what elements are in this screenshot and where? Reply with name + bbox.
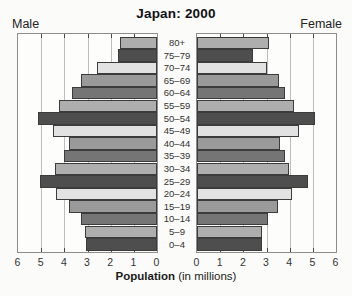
female-axis-tick-label: 6 [333, 256, 339, 268]
age-group-label-column: 80+75–7970–7465–6960–6455–5950–5445–4940… [158, 33, 196, 253]
male-axis-tick-label: 1 [130, 256, 136, 268]
male-bar-5–9 [85, 226, 157, 239]
axis-tick [41, 248, 42, 252]
gridline [313, 34, 314, 252]
male-side-label: Male [12, 17, 39, 31]
female-bar-10–14 [197, 213, 268, 226]
female-bar-45–49 [197, 125, 299, 138]
male-bar-15–19 [69, 200, 157, 213]
male-bar-30–34 [55, 163, 157, 176]
female-axis-tick-label: 1 [217, 256, 223, 268]
male-bar-50–54 [38, 112, 157, 125]
female-bar-80+ [197, 37, 269, 50]
age-label: 35–39 [158, 151, 196, 161]
female-axis-tick-label: 5 [309, 256, 315, 268]
age-label: 60–64 [158, 88, 196, 98]
x-axis-title: Population (in millions) [0, 270, 352, 282]
male-bar-40–44 [69, 137, 157, 150]
male-bar-25–29 [40, 175, 157, 188]
male-axis-tick-label: 5 [38, 256, 44, 268]
age-label: 30–34 [158, 164, 196, 174]
male-bar-75–79 [118, 49, 157, 62]
gridline [290, 34, 291, 252]
age-label: 15–19 [158, 202, 196, 212]
age-label: 0–4 [158, 240, 196, 250]
male-bar-35–39 [64, 150, 157, 163]
male-axis-tick-label: 6 [15, 256, 21, 268]
gridline [64, 34, 65, 252]
axis-tick [290, 248, 291, 252]
age-label: 5–9 [158, 227, 196, 237]
male-bar-45–49 [53, 125, 157, 138]
age-label: 40–44 [158, 139, 196, 149]
male-bar-20–24 [56, 188, 157, 201]
age-label: 45–49 [158, 126, 196, 136]
male-axis-tick-label: 3 [84, 256, 90, 268]
female-plot-area [196, 33, 337, 253]
age-label: 65–69 [158, 76, 196, 86]
axis-tick [41, 34, 42, 38]
axis-tick [313, 34, 314, 38]
female-bar-15–19 [197, 200, 278, 213]
female-bar-25–29 [197, 175, 308, 188]
female-axis-tick-label: 3 [263, 256, 269, 268]
male-bar-10–14 [81, 213, 157, 226]
male-bar-70–74 [97, 62, 157, 75]
chart-title: Japan: 2000 [0, 6, 352, 21]
gridline [41, 34, 42, 252]
male-axis-tick-label: 2 [107, 256, 113, 268]
female-bar-30–34 [197, 163, 289, 176]
female-bar-60–64 [197, 87, 285, 100]
axis-tick [64, 34, 65, 38]
axis-tick [313, 248, 314, 252]
male-bar-80+ [120, 37, 157, 50]
age-label: 10–14 [158, 214, 196, 224]
male-plot-area [17, 33, 158, 253]
female-bar-5–9 [197, 226, 262, 239]
male-axis-tick-label: 4 [61, 256, 67, 268]
female-bar-40–44 [197, 137, 280, 150]
female-bar-75–79 [197, 49, 253, 62]
female-bar-55–59 [197, 100, 294, 113]
male-bar-0–4 [86, 238, 157, 251]
x-axis-title-bold: Population [116, 270, 175, 282]
axis-tick [64, 248, 65, 252]
male-bar-55–59 [59, 100, 157, 113]
female-axis-tick-label: 4 [286, 256, 292, 268]
age-label: 25–29 [158, 177, 196, 187]
age-label: 70–74 [158, 63, 196, 73]
x-axis-tick-labels: 65432100123456 [0, 256, 352, 268]
female-bar-20–24 [197, 188, 292, 201]
female-side-label: Female [300, 17, 342, 31]
male-axis-tick-label: 0 [154, 256, 160, 268]
age-label: 20–24 [158, 189, 196, 199]
male-bar-65–69 [81, 74, 157, 87]
male-bar-60–64 [72, 87, 157, 100]
female-axis-tick-label: 2 [240, 256, 246, 268]
female-bar-0–4 [197, 238, 262, 251]
age-label: 50–54 [158, 114, 196, 124]
x-axis-title-rest: (in millions) [175, 270, 236, 282]
age-label: 80+ [158, 38, 196, 48]
axis-tick [111, 34, 112, 38]
axis-tick [267, 248, 268, 252]
female-bar-65–69 [197, 74, 279, 87]
age-label: 75–79 [158, 51, 196, 61]
female-bar-70–74 [197, 62, 267, 75]
female-bar-35–39 [197, 150, 285, 163]
age-label: 55–59 [158, 101, 196, 111]
axis-tick [290, 34, 291, 38]
female-axis-tick-label: 0 [194, 256, 200, 268]
female-bar-50–54 [197, 112, 315, 125]
axis-tick [88, 34, 89, 38]
